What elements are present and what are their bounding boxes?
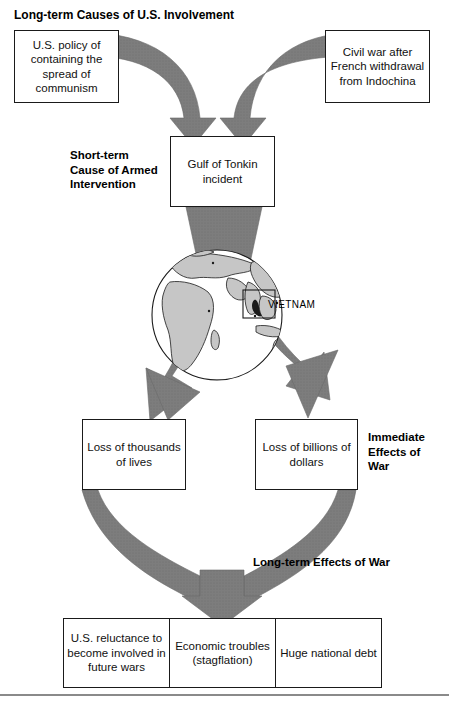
effect-economy-text: Economic troubles (stagflation)	[170, 639, 275, 668]
globe-graphic	[152, 249, 300, 384]
effect-debt-text: Huge national debt	[280, 646, 377, 661]
label-immediate-effects-of-war: Immediate Effects of War	[368, 430, 425, 474]
diagram-canvas: Long-term Causes of U.S. Involvement U.S…	[0, 0, 449, 708]
cause-box-civil-war: Civil war after French withdrawal from I…	[325, 30, 430, 103]
arrow-dollars-to-longterm	[244, 490, 356, 604]
cause-box-us-policy: U.S. policy of containing the spread of …	[14, 30, 119, 103]
loss-of-dollars-text: Loss of billions of dollars	[256, 440, 357, 469]
label-short-term-cause: Short-term Cause of Armed Intervention	[70, 148, 158, 192]
long-term-effect-cell-economy: Economic troubles (stagflation)	[170, 619, 276, 687]
globe-region-label-vietnam: VIETNAM	[268, 299, 315, 310]
cause-box-us-policy-text: U.S. policy of containing the spread of …	[15, 38, 118, 96]
short-term-cause-box-gulf-of-tonkin: Gulf of Tonkin incident	[170, 136, 275, 207]
label-long-term-effects-of-war: Long-term Effects of War	[253, 555, 390, 570]
immediate-effect-box-loss-of-lives: Loss of thousands of lives	[82, 419, 186, 490]
long-term-effect-cell-debt: Huge national debt	[276, 619, 381, 687]
page-bottom-rule	[0, 694, 449, 696]
immediate-effect-box-loss-of-dollars: Loss of billions of dollars	[255, 419, 358, 490]
page-title: Long-term Causes of U.S. Involvement	[14, 8, 234, 22]
cause-box-civil-war-text: Civil war after French withdrawal from I…	[326, 45, 429, 89]
effect-reluctance-text: U.S. reluctance to become involved in fu…	[64, 631, 169, 675]
long-term-effects-table: U.S. reluctance to become involved in fu…	[63, 618, 382, 688]
gulf-of-tonkin-text: Gulf of Tonkin incident	[171, 157, 274, 186]
long-term-effect-cell-reluctance: U.S. reluctance to become involved in fu…	[64, 619, 170, 687]
arrow-lives-to-longterm	[82, 490, 200, 604]
loss-of-lives-text: Loss of thousands of lives	[83, 440, 185, 469]
arrow-layer	[0, 0, 449, 708]
